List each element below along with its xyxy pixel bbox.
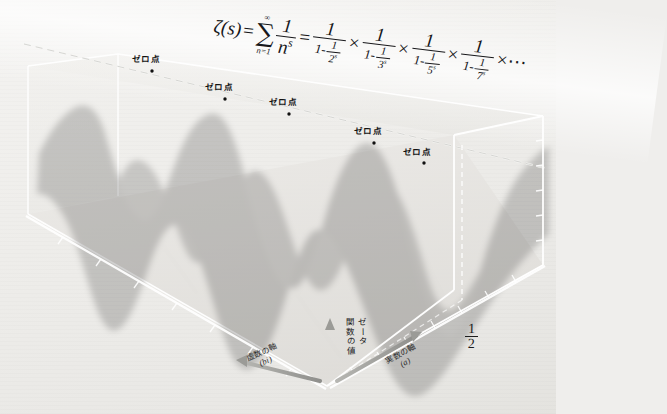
euler-factor-2: 11-12s (310, 18, 348, 66)
euler-2-inner-fraction: 12s (325, 39, 342, 65)
sum-term-denominator: ns (274, 35, 296, 58)
summation-symbol: ∞∑n=1 (255, 20, 276, 48)
value-axis-label-col1: ゼータ (356, 318, 366, 347)
zero-point-label-4: ゼロ点 (354, 124, 382, 136)
equals-2: = (298, 25, 311, 47)
euler-5-inner-fraction: 15s (424, 51, 441, 77)
half-denominator: 2 (465, 336, 478, 351)
zero-point-label-2: ゼロ点 (205, 80, 233, 92)
equals-1: = (242, 19, 255, 41)
euler-factor-3: 11-13s (360, 23, 398, 71)
critical-line-tick-label: 1 2 (465, 322, 479, 351)
sum-upper-limit: ∞ (264, 12, 271, 22)
paren-close: ) (234, 18, 243, 40)
euler-factor-5: 11-15s (409, 29, 447, 77)
times-3: × (447, 43, 460, 65)
trailing-ellipsis: ×⋯ (496, 48, 528, 72)
sum-term-fraction: 1ns (274, 15, 299, 57)
euler-factor-7: 11-17s (459, 35, 497, 83)
times-2: × (397, 37, 410, 59)
sum-term-numerator: 1 (276, 15, 298, 37)
zero-point-label-1: ゼロ点 (132, 52, 160, 64)
euler-7-inner-fraction: 17s (473, 57, 490, 83)
sum-lower-limit: n=1 (256, 45, 271, 57)
half-numerator: 1 (465, 322, 478, 336)
euler-5-denominator: 1-15s (409, 48, 445, 77)
zero-point-label-3: ゼロ点 (269, 95, 297, 107)
times-1: × (348, 31, 361, 53)
euler-7-denominator: 1-17s (459, 54, 495, 83)
euler-3-inner-fraction: 13s (375, 45, 392, 71)
euler-3-denominator: 1-13s (360, 42, 396, 71)
zero-point-label-5: ゼロ点 (403, 145, 431, 157)
euler-2-denominator: 1-12s (310, 37, 346, 66)
value-axis-label-col2: 関数の値 (344, 318, 354, 357)
